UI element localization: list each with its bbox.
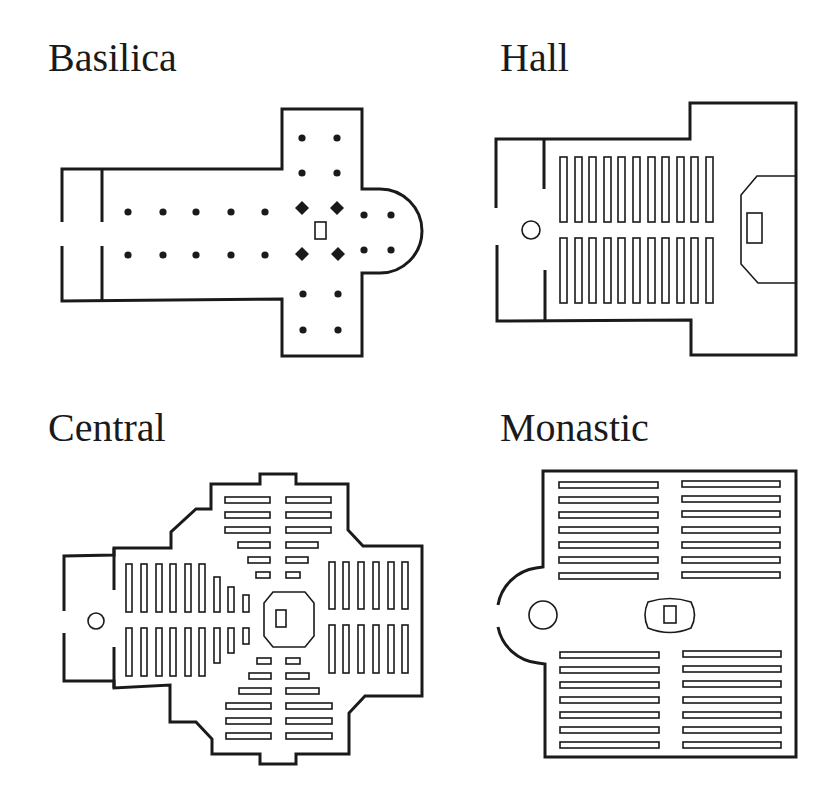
plans-canvas [0,0,833,788]
central-south-pews [226,658,332,739]
hall-plan [496,103,796,355]
central-altar [276,610,286,627]
monastic-pews-southwest [560,652,659,748]
basilica-transept-columns [298,134,341,333]
monastic-altar [664,606,676,623]
central-plan [64,474,422,764]
central-west-pews [126,564,249,676]
hall-chancel [741,176,796,283]
basilica-nave-columns [124,208,268,258]
monastic-altar-enclosure [645,599,695,633]
monastic-pews-northeast [682,481,780,578]
hall-narthex-wall [544,139,545,321]
basilica-plan [62,109,422,356]
monastic-pews-northwest [559,482,658,579]
hall-pews [560,157,713,303]
central-east-pews [329,562,408,673]
hall-altar [747,213,762,243]
monastic-pews-southeast [683,651,781,748]
central-north-pews [225,497,331,578]
monastic-font [529,601,557,629]
central-font [88,613,104,629]
basilica-crossing-piers [295,201,345,261]
basilica-outer-wall [62,109,422,356]
basilica-apse-columns [360,211,394,253]
monastic-plan [498,471,796,757]
central-altar-enclosure [264,592,314,647]
hall-font [522,221,540,239]
basilica-altar [315,222,326,239]
hall-outer-wall [496,103,796,355]
